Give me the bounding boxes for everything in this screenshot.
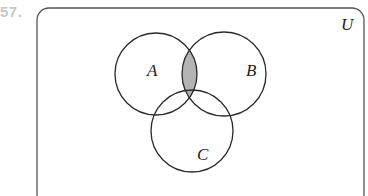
universe-frame: [37, 8, 364, 196]
label-universe: U: [341, 15, 355, 34]
circle-c: [151, 90, 233, 172]
label-c: C: [197, 145, 209, 164]
label-b: B: [246, 61, 257, 80]
venn-diagram: A B C U: [0, 0, 368, 196]
label-a: A: [146, 61, 158, 80]
